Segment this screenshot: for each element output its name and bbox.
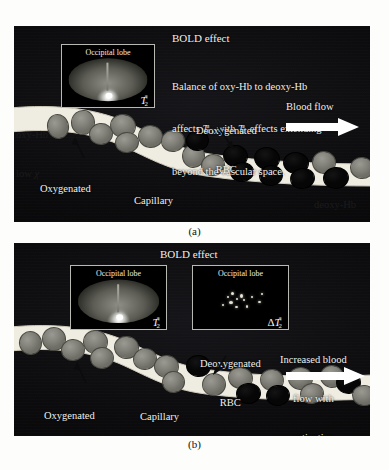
- increased-flow-arrow: [286, 367, 366, 385]
- label-capillary-b: Capillary: [140, 410, 179, 423]
- inset-contrast-label: T22*: [152, 316, 162, 328]
- deoxygenated-rbc-line-2: RBC: [196, 163, 257, 176]
- panel-a-caption: (a): [0, 225, 389, 237]
- rbc-oxygenated: [45, 112, 72, 141]
- rbc-oxygenated: [114, 131, 139, 154]
- flow-line-2: flow with: [280, 392, 347, 405]
- pointer-deoxygenated-rbc-b: [210, 355, 230, 377]
- rbc-oxygenated: [136, 123, 165, 150]
- deoxy-hb-line-1: deoxy-Hb: [314, 198, 356, 211]
- inset-contrast-label: T22*: [140, 94, 150, 106]
- label-deoxygenated-rbc-b: Deoxygenated RBC: [200, 331, 261, 435]
- pointer-oxygenated-rbc-a: [70, 136, 92, 160]
- brain-image: [78, 279, 160, 324]
- flow-line-1: Increased blood: [280, 353, 347, 366]
- rbc-oxygenated: [17, 329, 44, 357]
- inset-occipital-lobe-delta-t2star: Occipital lobe ΔT22*: [192, 265, 289, 330]
- pointer-oxygenated-rbc-b: [72, 361, 94, 385]
- deoxygenated-rbc-line-2: RBC: [200, 396, 261, 409]
- panel-a-title: BOLD effect: [172, 32, 230, 45]
- oxygenated-rbc-line-1: Oxygenated: [40, 182, 91, 195]
- inset-caption: Occipital lobe: [71, 269, 166, 278]
- description-line-1: Balance of oxy-Hb to deoxy-Hb: [172, 80, 322, 94]
- panel-b-title: BOLD effect: [160, 248, 218, 261]
- inset-occipital-lobe-t2star-b: Occipital lobe T22*: [70, 265, 167, 330]
- oxygenated-rbc-line-2: RBC: [40, 221, 91, 222]
- flow-line-3: activation: [280, 431, 347, 436]
- figure-bold-effect: Occipital lobe T22* BOLD effect Balance …: [0, 0, 389, 470]
- label-blood-flow: Blood flow: [286, 100, 334, 113]
- label-oxygenated-rbc-a: Oxygenated RBC: [40, 156, 91, 222]
- label-capillary-a: Capillary: [134, 194, 173, 207]
- oxygenated-rbc-line-1: Oxygenated: [44, 409, 95, 422]
- oxy-hb-line-1: oxy-Hb: [16, 128, 48, 141]
- brain-image: [68, 57, 147, 102]
- inset-occipital-lobe-t2star-a: Occipital lobe T22*: [61, 44, 155, 108]
- inset-caption: Occipital lobe: [193, 269, 288, 278]
- blood-flow-arrow: [286, 118, 360, 136]
- rbc-oxygenated: [161, 370, 187, 395]
- inset-caption: Occipital lobe: [62, 48, 154, 57]
- panel-b-caption: (b): [0, 438, 389, 450]
- label-deoxy-hb: deoxy-Hb high χ: [314, 172, 356, 222]
- panel-a: Occipital lobe T22* BOLD effect Balance …: [14, 26, 370, 222]
- label-oxygenated-rbc-b: Oxygenated RBC: [44, 383, 95, 436]
- activation-spot: [106, 92, 113, 98]
- activation-spot: [116, 314, 123, 320]
- pointer-deoxygenated-rbc-a: [214, 125, 238, 151]
- panel-b: Occipital lobe T22* Occipital lobe ΔT22*: [14, 243, 370, 436]
